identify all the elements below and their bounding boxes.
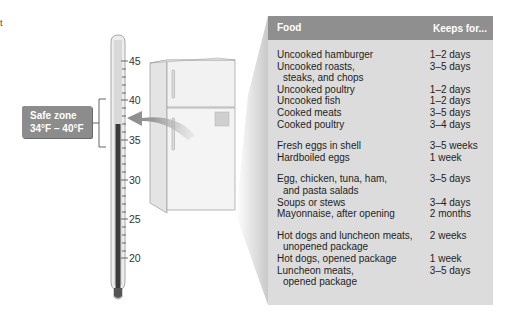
table-row: Luncheon meats,opened package3–5 days [277, 265, 489, 288]
table-row: Uncooked fish1–2 days [277, 95, 489, 107]
scale-label-40: 40 [129, 94, 141, 106]
table-body: Uncooked hamburger1–2 days Uncooked roas… [277, 49, 489, 288]
table-row: Egg, chicken, tuna, ham,and pasta salads… [277, 173, 489, 196]
table-row: Soups or stews3–4 days [277, 197, 489, 209]
food-storage-table: Food Keeps for... Uncooked hamburger1–2 … [268, 16, 493, 305]
scale-label-45: 45 [129, 55, 141, 67]
scale-label-35: 35 [129, 134, 141, 146]
table-row: Hot dogs, opened package1 week [277, 253, 489, 265]
table-row: Hot dogs and luncheon meats,unopened pac… [277, 230, 489, 253]
table-header: Food Keeps for... [268, 16, 493, 40]
safe-zone-label: Safe zone 34°F – 40°F [22, 106, 92, 138]
safe-zone-bracket [92, 99, 106, 147]
table-row: Hardboiled eggs1 week [277, 152, 489, 164]
table-row: Fresh eggs in shell3–5 weeks [277, 140, 489, 152]
scale-label-30: 30 [129, 174, 141, 186]
table-row: Uncooked hamburger1–2 days [277, 49, 489, 61]
mercury-column [116, 124, 121, 292]
scale-label-25: 25 [129, 213, 141, 225]
table-row: Cooked meats3–5 days [277, 107, 489, 119]
header-keeps-for: Keeps for... [433, 23, 487, 34]
table-row: Uncooked roasts,steaks, and chops3–5 day… [277, 61, 489, 84]
safe-zone-range: 34°F – 40°F [30, 122, 92, 135]
table-row: Cooked poultry3–4 days [277, 119, 489, 131]
table-row: Uncooked poultry1–2 days [277, 84, 489, 96]
scale-label-20: 20 [129, 252, 141, 264]
header-food: Food [277, 22, 301, 33]
safe-zone-title: Safe zone [30, 109, 92, 122]
table-row: Mayonnaise, after opening2 months [277, 208, 489, 220]
